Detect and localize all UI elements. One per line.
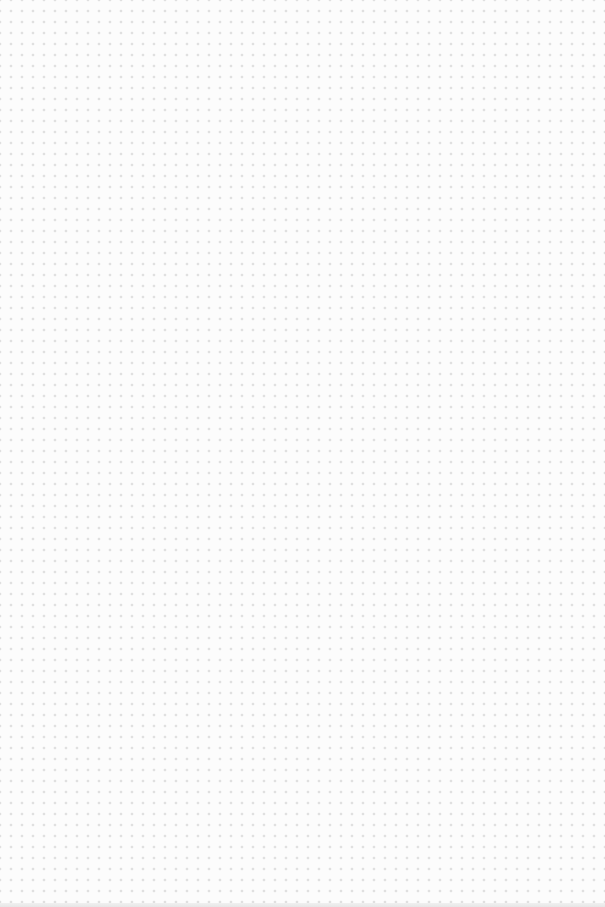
page-edge-shadow (0, 903, 605, 907)
dot-grid-page (0, 0, 605, 903)
